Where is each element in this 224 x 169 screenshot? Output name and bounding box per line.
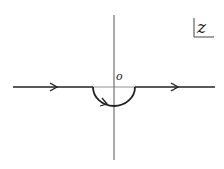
contour-svg: [0, 0, 224, 169]
origin-label: o: [116, 70, 123, 83]
plane-label: z: [197, 17, 206, 37]
contour-diagram: o z: [0, 0, 224, 169]
